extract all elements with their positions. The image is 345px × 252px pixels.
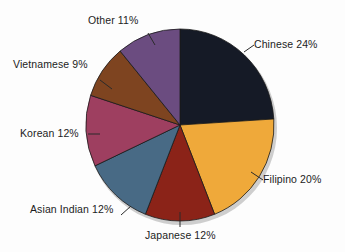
pie-label-chinese: Chinese 24% bbox=[254, 38, 318, 50]
pie-label-filipino: Filipino 20% bbox=[263, 173, 321, 185]
pie-label-other: Other 11% bbox=[88, 14, 138, 26]
pie-label-vietnamese: Vietnamese 9% bbox=[13, 58, 88, 70]
pie-chart-figure: Chinese 24% Filipino 20% Japanese 12% As… bbox=[0, 0, 345, 252]
pie-label-korean: Korean 12% bbox=[20, 127, 79, 139]
pie-label-asian-indian: Asian Indian 12% bbox=[30, 203, 113, 215]
leader-line-indian bbox=[121, 206, 131, 215]
pie-slice-group bbox=[86, 29, 274, 221]
leader-line-chinese bbox=[244, 45, 254, 52]
pie-label-japanese: Japanese 12% bbox=[145, 229, 216, 241]
